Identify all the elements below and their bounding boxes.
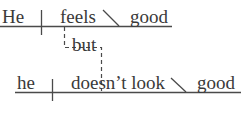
complement-bottom: good [197, 73, 235, 92]
complement-top: good [130, 7, 168, 26]
diagram-lines [0, 0, 241, 120]
subject-bottom: he [17, 73, 35, 92]
verb-top: feels [60, 7, 96, 26]
complement-slash-top [103, 10, 119, 26]
subject-top: He [2, 7, 24, 26]
verb-bottom: doesn’t look [71, 73, 165, 92]
conjunction: but [72, 35, 96, 54]
complement-slash-bottom [171, 78, 186, 92]
